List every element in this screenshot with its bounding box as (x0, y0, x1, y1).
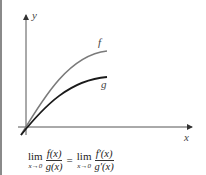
x-axis-label: x (183, 131, 189, 143)
numerator: f(x) (46, 148, 63, 161)
equals-sign: = (67, 154, 73, 166)
lim-subscript: x→0 (29, 162, 43, 170)
curve-g (21, 77, 107, 135)
fraction-left: f(x) g(x) (46, 148, 63, 173)
y-axis-label: y (31, 9, 37, 21)
denominator: g′(x) (94, 161, 113, 173)
lim-word: lim (77, 151, 92, 162)
fraction-right: f′(x) g′(x) (94, 148, 113, 173)
lim-left: lim x→0 (28, 151, 43, 170)
lim-subscript: x→0 (77, 162, 91, 170)
lim-word: lim (28, 151, 43, 162)
curve-f-label: f (98, 36, 103, 48)
denominator: g(x) (46, 161, 63, 173)
numerator: f′(x) (95, 148, 114, 161)
lim-right: lim x→0 (77, 151, 92, 170)
lhopital-formula: lim x→0 f(x) g(x) = lim x→0 f′(x) g′(x) (28, 147, 114, 173)
curve-g-label: g (101, 78, 107, 90)
